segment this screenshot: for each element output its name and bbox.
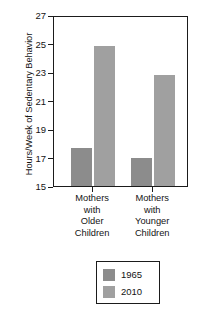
bar-chart-figure: Hours/Week of Sedentary Behavior 1517192… bbox=[0, 0, 201, 312]
legend-label: 2010 bbox=[121, 287, 142, 297]
chart-legend: 19652010 bbox=[96, 261, 160, 304]
bars-group bbox=[54, 17, 187, 186]
y-tick-label: 15 bbox=[26, 182, 46, 192]
y-tick-label: 23 bbox=[26, 68, 46, 78]
y-tick-label: 21 bbox=[26, 97, 46, 107]
y-tick-label: 17 bbox=[26, 154, 46, 164]
x-category-label-line: with bbox=[115, 205, 189, 217]
y-tick-label: 27 bbox=[26, 11, 46, 21]
legend-item: 1965 bbox=[103, 266, 159, 283]
legend-swatch-icon bbox=[103, 286, 115, 298]
bar-2010-group1 bbox=[94, 46, 115, 186]
legend-label: 1965 bbox=[121, 270, 142, 280]
x-tick-mark bbox=[92, 187, 93, 192]
bar-1965-group1 bbox=[71, 148, 92, 186]
y-tick-label: 19 bbox=[26, 125, 46, 135]
bar-1965-group2 bbox=[131, 158, 152, 187]
x-category-label-line: Younger bbox=[115, 216, 189, 228]
x-category-label-line: Children bbox=[115, 228, 189, 240]
x-category-label-2: MotherswithYoungerChildren bbox=[115, 193, 189, 239]
x-category-label-line: Mothers bbox=[115, 193, 189, 205]
y-tick-label: 25 bbox=[26, 40, 46, 50]
legend-swatch-icon bbox=[103, 269, 115, 281]
x-tick-mark bbox=[152, 187, 153, 192]
bar-2010-group2 bbox=[154, 75, 175, 186]
legend-item: 2010 bbox=[103, 283, 159, 300]
plot-area bbox=[53, 16, 188, 187]
